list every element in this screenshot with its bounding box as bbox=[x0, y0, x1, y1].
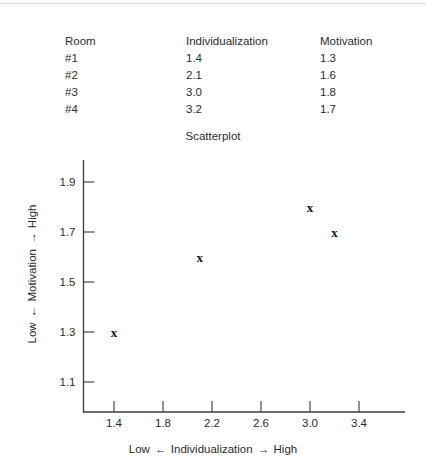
y-tick-label: 1.7 bbox=[60, 226, 76, 238]
x-axis-high-label: High bbox=[274, 443, 298, 455]
y-axis-caption: Low ← Motivation → High bbox=[26, 179, 38, 369]
data-point-marker: x bbox=[111, 325, 118, 340]
x-tick-label: 3.0 bbox=[302, 417, 318, 429]
x-axis-name-label: Individualization bbox=[171, 443, 253, 455]
x-tick-label: 3.4 bbox=[351, 417, 368, 429]
left-arrow-icon: ← bbox=[153, 443, 168, 455]
x-tick-label: 2.2 bbox=[204, 417, 220, 429]
x-tick-group: 1.41.82.22.63.03.4 bbox=[106, 401, 368, 429]
y-tick-group: 1.11.31.51.71.9 bbox=[60, 176, 95, 388]
y-tick-label: 1.5 bbox=[60, 276, 76, 288]
y-tick-label: 1.1 bbox=[60, 376, 76, 388]
x-tick-label: 2.6 bbox=[253, 417, 269, 429]
right-arrow-icon: → bbox=[256, 443, 271, 455]
y-tick-label: 1.9 bbox=[60, 176, 76, 188]
data-point-marker: x bbox=[331, 225, 338, 240]
y-axis-name-label: Motivation bbox=[26, 249, 38, 301]
data-point-marker: x bbox=[197, 250, 204, 265]
y-tick-label: 1.3 bbox=[60, 326, 76, 338]
x-axis-caption: Low ← Individualization → High bbox=[0, 443, 426, 455]
right-arrow-icon: → bbox=[26, 231, 38, 246]
data-point-marker: x bbox=[307, 200, 314, 215]
y-axis-high-label: High bbox=[26, 205, 38, 229]
y-axis-low-label: Low bbox=[26, 322, 38, 343]
left-arrow-icon: ← bbox=[26, 305, 38, 320]
scatterplot-canvas: 1.11.31.51.71.9 1.41.82.22.63.03.4 xxxx bbox=[0, 0, 426, 471]
x-axis-low-label: Low bbox=[129, 443, 150, 455]
x-tick-label: 1.8 bbox=[155, 417, 171, 429]
x-tick-label: 1.4 bbox=[106, 417, 123, 429]
axes-group bbox=[83, 160, 405, 413]
scatterplot-figure: Scatterplot 1.11.31.51.71.9 1.41.82.22.6… bbox=[0, 0, 426, 471]
data-point-group: xxxx bbox=[111, 200, 339, 340]
